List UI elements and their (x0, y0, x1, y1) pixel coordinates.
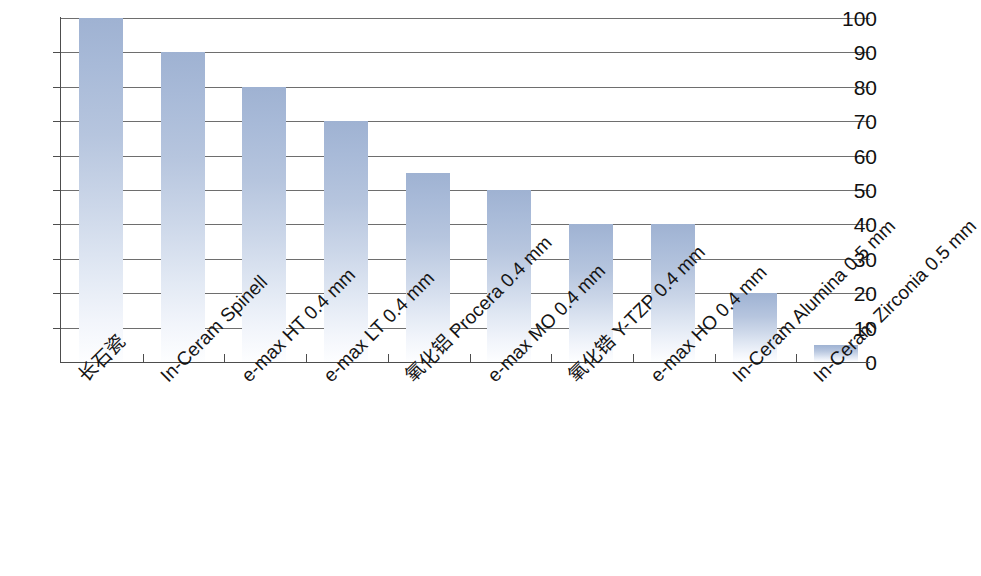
y-axis-tick-label: 100 (831, 8, 877, 29)
y-axis-tick-label: 60 (831, 145, 877, 166)
x-axis-tick-mark (633, 354, 634, 363)
x-axis-tick-mark (388, 354, 389, 363)
y-axis-tick-mark (53, 121, 61, 122)
y-axis-tick-mark (53, 224, 61, 225)
x-axis-tick-mark (551, 354, 552, 363)
x-axis-tick-mark (715, 354, 716, 363)
y-axis-tick-label: 50 (831, 180, 877, 201)
y-axis-tick-mark (53, 156, 61, 157)
x-axis-tick-mark (796, 354, 797, 363)
x-axis-tick-mark (224, 354, 225, 363)
bar (242, 87, 286, 362)
bar (79, 18, 123, 362)
y-axis-tick-mark (53, 52, 61, 53)
bar (161, 52, 205, 362)
y-axis-tick-label: 70 (831, 111, 877, 132)
gridline-100 (61, 18, 870, 19)
x-axis-tick-mark (470, 354, 471, 363)
y-axis-tick-mark (53, 328, 61, 329)
y-axis-tick-label: 80 (831, 76, 877, 97)
y-axis-tick-label: 90 (831, 42, 877, 63)
y-axis-tick-mark (53, 293, 61, 294)
x-axis-tick-mark (306, 354, 307, 363)
y-axis-tick-mark (53, 87, 61, 88)
y-axis-tick-mark (53, 259, 61, 260)
bar (324, 121, 368, 362)
x-axis-tick-mark (143, 354, 144, 363)
y-axis-tick-mark (53, 190, 61, 191)
